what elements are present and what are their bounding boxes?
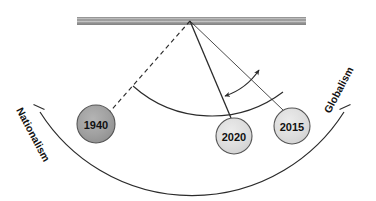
label-nationalism: Nationalism bbox=[14, 105, 53, 163]
bob-1940-label: 1940 bbox=[84, 119, 108, 131]
label-globalism: Globalism bbox=[321, 64, 355, 114]
bob-2015-label: 2015 bbox=[280, 121, 304, 133]
diagram-canvas: 1940 2020 2015 Nationalism Globalism bbox=[0, 0, 376, 201]
bob-1940[interactable]: 1940 bbox=[77, 105, 115, 143]
arc-tick-right bbox=[340, 105, 351, 110]
inner-range-arc bbox=[133, 86, 283, 116]
bob-2020-label: 2020 bbox=[222, 131, 246, 143]
arc-tick-left bbox=[34, 105, 45, 110]
rod-1940-dashed bbox=[107, 21, 190, 115]
bob-2015[interactable]: 2015 bbox=[274, 108, 310, 144]
pendulum-diagram: 1940 2020 2015 Nationalism Globalism bbox=[0, 0, 376, 201]
rod-2020 bbox=[190, 21, 231, 118]
rod-2015 bbox=[190, 21, 283, 110]
oscillation-double-arrow bbox=[225, 70, 259, 96]
bob-2020[interactable]: 2020 bbox=[216, 118, 252, 154]
